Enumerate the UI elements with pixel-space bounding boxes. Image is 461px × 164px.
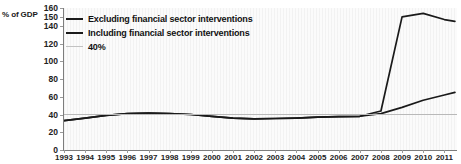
y-axis-tick-labels: 020406080100120140150160: [28, 0, 58, 164]
x-axis-tick-label: 1999: [182, 153, 200, 162]
x-axis-tick-label: 1997: [140, 153, 158, 162]
y-axis-tick-label: 100: [44, 56, 58, 66]
chart-legend: Excluding financial sector interventions…: [66, 12, 253, 53]
x-axis-tick-label: 2002: [245, 153, 263, 162]
legend-swatch-including: [66, 32, 83, 34]
x-axis-tick-label: 2000: [203, 153, 221, 162]
x-axis-tick-mark: [127, 150, 128, 153]
x-axis-tick-mark: [339, 150, 340, 153]
y-axis-tick-label: 60: [49, 92, 58, 102]
x-axis-tick-label: 1994: [76, 153, 94, 162]
y-axis-tick-label: 20: [49, 127, 58, 137]
x-axis-tick-mark: [212, 150, 213, 153]
x-axis-tick-mark: [296, 150, 297, 153]
x-axis-tick-label: 2006: [330, 153, 348, 162]
x-axis-tick-mark: [444, 150, 445, 153]
x-axis-tick-mark: [381, 150, 382, 153]
legend-label-including: Including financial sector interventions: [88, 28, 250, 38]
x-axis-tick-mark: [64, 150, 65, 153]
x-axis-tick-label: 2007: [351, 153, 369, 162]
x-axis-tick-mark: [318, 150, 319, 153]
x-axis-tick-mark: [360, 150, 361, 153]
x-axis-tick-label: 2010: [414, 153, 432, 162]
x-axis-tick-mark: [254, 150, 255, 153]
x-axis-tick-label: 2008: [372, 153, 390, 162]
x-axis-tick-mark: [149, 150, 150, 153]
x-axis-line: [64, 150, 457, 151]
legend-item: 40%: [66, 40, 253, 53]
x-axis-tick-mark: [170, 150, 171, 153]
x-axis-tick-label: 2009: [393, 153, 411, 162]
x-axis-tick-mark: [423, 150, 424, 153]
x-axis-tick-mark: [402, 150, 403, 153]
x-axis-tick-mark: [233, 150, 234, 153]
x-axis-tick-mark: [106, 150, 107, 153]
x-axis-tick-mark: [275, 150, 276, 153]
y-axis-tick-label: 160: [44, 3, 58, 13]
legend-item: Excluding financial sector interventions: [66, 12, 253, 25]
y-axis-tick-label: 140: [44, 21, 58, 31]
x-axis-tick-label: 2011: [436, 153, 453, 162]
x-axis-tick-label: 2004: [288, 153, 306, 162]
x-axis-tick-label: 1996: [118, 153, 136, 162]
chart-figure: % of GDP 020406080100120140150160 199319…: [0, 0, 461, 164]
series-line: [64, 92, 455, 120]
x-axis-tick-label: 1998: [161, 153, 179, 162]
legend-label-forty-percent: 40%: [88, 42, 106, 52]
y-axis-tick-label: 40: [49, 110, 58, 120]
x-axis-tick-label: 1993: [55, 153, 73, 162]
legend-swatch-forty-percent: [66, 46, 83, 47]
x-axis-tick-mark: [191, 150, 192, 153]
legend-swatch-excluding: [66, 18, 83, 20]
x-axis-tick-mark: [85, 150, 86, 153]
y-axis-tick-label: 150: [44, 12, 58, 22]
y-axis-tick-label: 120: [44, 39, 58, 49]
x-axis-tick-label: 1995: [97, 153, 115, 162]
x-axis-tick-label: 2001: [224, 153, 242, 162]
x-axis-tick-label: 2003: [266, 153, 284, 162]
legend-label-excluding: Excluding financial sector interventions: [88, 14, 253, 24]
legend-item: Including financial sector interventions: [66, 26, 253, 39]
y-axis-tick-label: 80: [49, 74, 58, 84]
x-axis-tick-label: 2005: [309, 153, 327, 162]
